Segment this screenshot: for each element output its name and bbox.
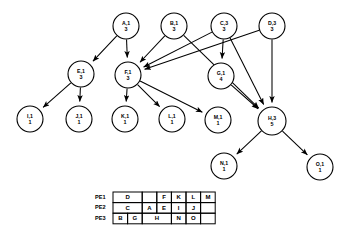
schedule-cell-text: E (162, 205, 166, 211)
graph-edge-h-n (237, 131, 262, 154)
graph-node-d[interactable]: D,33 (259, 13, 285, 39)
node-label-a: A,1 (122, 20, 130, 26)
graph-node-a[interactable]: A,13 (113, 13, 139, 39)
graph-nodes: A,13B,13C,33D,33E,13F,13G,14H,35I,11J,11… (17, 13, 333, 180)
node-label-n: N,1 (220, 160, 228, 166)
figure-root: A,13B,13C,33D,33E,13F,13G,14H,35I,11J,11… (0, 0, 347, 242)
graph-node-f[interactable]: F,13 (115, 62, 141, 88)
node-weight-m: 1 (217, 120, 220, 126)
graph-node-j[interactable]: J,11 (66, 106, 92, 132)
graph-edge-d-f (145, 30, 260, 69)
graph-edge-h-o (282, 131, 307, 155)
schedule-cell-text: B (118, 215, 123, 221)
graph-edge-f-k (126, 88, 127, 101)
graph-edge-a-f (127, 39, 128, 57)
node-label-k: K,1 (121, 113, 129, 119)
node-weight-o: 1 (319, 167, 322, 173)
node-weight-b: 3 (173, 26, 176, 32)
schedule-cell-text: J (192, 205, 195, 211)
graph-node-m[interactable]: M,11 (205, 107, 231, 133)
graph-node-i[interactable]: I,11 (17, 106, 43, 132)
graph-edge-c-h (230, 38, 264, 104)
graph-edge-a-e (93, 36, 117, 61)
graph-node-k[interactable]: K,11 (112, 106, 138, 132)
node-label-m: M,1 (214, 114, 223, 120)
graph-node-n[interactable]: N,11 (211, 153, 237, 179)
node-weight-n: 1 (223, 166, 226, 172)
node-weight-a: 3 (125, 26, 128, 32)
node-label-e: E,1 (77, 68, 85, 74)
schedule-cell-text: L (191, 194, 195, 200)
graph-node-b[interactable]: B,13 (161, 13, 187, 39)
node-weight-i: 1 (29, 119, 32, 125)
node-weight-e: 3 (80, 74, 83, 80)
pe-row-label-1: PE1 (95, 194, 106, 200)
schedule-cell-text: H (155, 215, 159, 221)
node-weight-h: 5 (271, 121, 274, 127)
pe-row-label-3: PE3 (95, 215, 106, 221)
node-weight-k: 1 (124, 119, 127, 125)
node-weight-d: 3 (271, 26, 274, 32)
pe-row-label-2: PE2 (95, 204, 106, 210)
node-label-d: D,3 (268, 20, 276, 26)
schedule-cell-text: M (205, 194, 210, 200)
node-weight-j: 1 (78, 119, 81, 125)
graph-node-e[interactable]: E,13 (68, 61, 94, 87)
graph-node-g[interactable]: G,14 (208, 63, 234, 89)
node-label-o: O,1 (316, 161, 324, 167)
node-label-c: C,3 (220, 20, 228, 26)
graph-edge-e-i (43, 83, 71, 107)
schedule-cell-text: A (147, 205, 152, 211)
schedule-cell-text: D (125, 194, 130, 200)
node-weight-l: 1 (171, 119, 174, 125)
node-label-b: B,1 (170, 20, 178, 26)
schedule-cell-text: N (177, 215, 181, 221)
node-label-h: H,3 (268, 115, 276, 121)
node-label-l: L,1 (168, 113, 176, 119)
schedule-table: PE1DFKLMPE2CAEIJPE3BGHNO (95, 192, 215, 224)
graph-node-h[interactable]: H,35 (258, 107, 286, 135)
graph-edge-e-j (80, 87, 81, 101)
schedule-cell-text: C (125, 205, 130, 211)
schedule-cell-text: F (162, 194, 166, 200)
graph-edge-f-l (138, 85, 160, 107)
node-weight-g: 4 (220, 76, 223, 82)
graph-edge-g-h (231, 85, 258, 109)
node-label-f: F,1 (125, 69, 132, 75)
schedule-cell-text: G (133, 215, 138, 221)
graph-node-c[interactable]: C,33 (211, 13, 237, 39)
schedule-cell-text: K (177, 194, 182, 200)
node-weight-f: 3 (127, 75, 130, 81)
node-label-g: G,1 (217, 70, 225, 76)
graph-edges (43, 30, 307, 155)
node-label-i: I,1 (27, 113, 33, 119)
task-graph-figure: A,13B,13C,33D,33E,13F,13G,14H,35I,11J,11… (0, 0, 347, 242)
node-weight-c: 3 (223, 26, 226, 32)
schedule-cell-text: O (191, 215, 196, 221)
graph-node-o[interactable]: O,11 (307, 154, 333, 180)
node-label-j: J,1 (75, 113, 82, 119)
graph-node-l[interactable]: L,11 (159, 106, 185, 132)
